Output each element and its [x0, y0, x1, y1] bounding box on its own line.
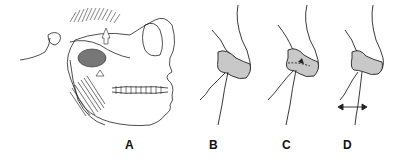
panel-label-d: D: [343, 138, 352, 152]
panel-a-skull: [20, 18, 175, 125]
panel-c-tmj: [268, 5, 319, 125]
bidirectional-arrow-icon: [338, 104, 367, 110]
panel-label-a: A: [125, 138, 134, 152]
pterygoid-muscle: [78, 49, 106, 67]
panel-label-c: C: [282, 138, 291, 152]
temporalis-muscle: [70, 8, 120, 23]
figure-canvas: [0, 0, 399, 166]
panel-b-tmj: [200, 5, 251, 125]
panel-label-b: B: [209, 138, 218, 152]
